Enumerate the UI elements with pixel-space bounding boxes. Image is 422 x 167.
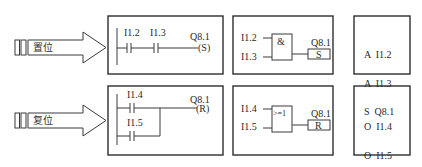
gate-symbol: >=1 bbox=[273, 109, 286, 118]
set-arrow: 置位 bbox=[15, 32, 106, 63]
coil-type: (S) bbox=[198, 42, 210, 54]
fbd-output-address: Q8.1 bbox=[311, 108, 331, 119]
arrow-tail-bar-1 bbox=[15, 40, 20, 55]
stl-line: A I1.2 bbox=[364, 50, 394, 60]
stl-line: O I1.4 bbox=[364, 122, 395, 132]
contact-2-label: I1.3 bbox=[150, 27, 166, 38]
ladder-diagram-reset: I1.4 I1.5 Q8.1 (R) bbox=[108, 86, 223, 155]
fbd-diagram-reset: I1.4 I1.5 >=1 R Q8.1 bbox=[233, 86, 333, 155]
fbd-output-address: Q8.1 bbox=[311, 37, 331, 48]
arrow-label: 复位 bbox=[33, 114, 53, 126]
plc-set-reset-diagram: 置位 I1.2 I1.3 Q8.1 (S) I1. bbox=[0, 0, 422, 167]
stl-line: A I1.3 bbox=[364, 79, 394, 89]
fbd-input-1: I1.2 bbox=[241, 32, 257, 43]
ladder-diagram-set: I1.2 I1.3 Q8.1 (S) bbox=[108, 16, 223, 74]
arrow-tail-bar-2 bbox=[21, 113, 26, 128]
fbd-input-1: I1.4 bbox=[241, 103, 257, 114]
stl-code-reset: O I1.4 O I1.5 R Q8.1 bbox=[364, 103, 395, 167]
contact-1-label: I1.4 bbox=[127, 89, 143, 100]
arrow-tail-bar-1 bbox=[15, 113, 20, 128]
contact-2-label: I1.5 bbox=[127, 117, 143, 128]
fbd-input-2: I1.5 bbox=[241, 121, 257, 132]
row-set: 置位 I1.2 I1.3 Q8.1 (S) I1. bbox=[15, 16, 410, 74]
arrow-tail-bar-2 bbox=[21, 40, 26, 55]
fbd-diagram-set: I1.2 I1.3 & S Q8.1 bbox=[233, 16, 333, 74]
coil-type: (R) bbox=[196, 103, 209, 115]
stl-line: O I1.5 bbox=[364, 151, 395, 161]
output-box-label: S bbox=[316, 49, 322, 60]
arrow-label: 置位 bbox=[33, 41, 53, 53]
reset-arrow: 复位 bbox=[15, 105, 106, 136]
coil-address: Q8.1 bbox=[190, 31, 210, 42]
fbd-input-2: I1.3 bbox=[241, 51, 257, 62]
row-reset: 复位 I1.4 I1.5 Q8.1 (R) bbox=[15, 86, 410, 155]
output-box-label: R bbox=[315, 120, 322, 131]
gate-symbol: & bbox=[277, 36, 285, 47]
contact-1-label: I1.2 bbox=[124, 27, 140, 38]
